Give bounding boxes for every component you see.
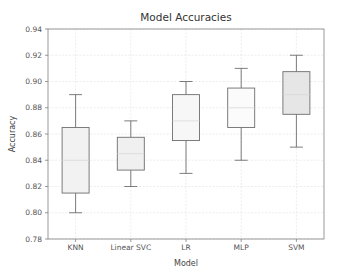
- y-tick-label: 0.78: [25, 235, 42, 244]
- y-tick-label: 0.86: [25, 130, 42, 139]
- box-svm: [283, 55, 310, 147]
- y-tick-label: 0.80: [25, 208, 42, 217]
- chart-title: Model Accuracies: [140, 11, 231, 23]
- x-tick-label: SVM: [288, 243, 304, 252]
- x-axis-ticks: KNNLinear SVCLRMLPSVM: [68, 239, 305, 252]
- y-tick-label: 0.88: [25, 103, 42, 112]
- y-axis-ticks: 0.780.800.820.840.860.880.900.920.94: [25, 25, 48, 244]
- y-tick-label: 0.94: [25, 25, 42, 34]
- box-mlp: [228, 68, 255, 160]
- x-tick-label: Linear SVC: [110, 243, 151, 252]
- y-tick-label: 0.84: [25, 156, 42, 165]
- x-axis-label: Model: [174, 259, 198, 268]
- x-tick-label: LR: [181, 243, 190, 252]
- box-plot-chart: Model Accuracies 0.780.800.820.840.860.8…: [0, 0, 340, 279]
- x-tick-label: KNN: [68, 243, 84, 252]
- iqr-box: [173, 95, 200, 141]
- y-axis-label: Accuracy: [8, 115, 17, 152]
- box-linear-svc: [117, 121, 144, 187]
- box-knn: [62, 95, 89, 213]
- y-tick-label: 0.90: [25, 77, 42, 86]
- y-tick-label: 0.82: [25, 182, 42, 191]
- y-tick-label: 0.92: [25, 51, 42, 60]
- x-tick-label: MLP: [234, 243, 250, 252]
- box-lr: [173, 82, 200, 174]
- iqr-box: [283, 72, 310, 115]
